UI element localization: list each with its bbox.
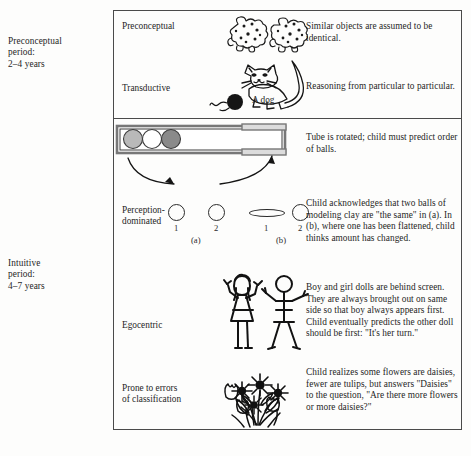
clay-number-a1: 1: [174, 223, 178, 233]
table-row: Prone to errors of classification: [114, 365, 461, 430]
period-label-intuitive: Intuitive period: 4–7 years: [8, 258, 106, 292]
period-label-line3: 4–7 years: [8, 281, 106, 292]
illustration-similar-creatures: [222, 14, 308, 54]
period-label-line2: period:: [8, 269, 106, 280]
table-row: Perception- dominated 1 2 1 2 (a) (b) Ch…: [114, 196, 461, 256]
row-description-egocentric: Boy and girl dolls are behind screen. Th…: [306, 282, 458, 340]
row-description-preconceptual: Similar objects are assumed to be identi…: [306, 21, 458, 44]
figure-page: Preconceptual period: 2–4 years Intuitiv…: [0, 0, 471, 456]
illustration-clay-conservation: 1 2 1 2 (a) (b): [164, 202, 304, 248]
illustration-flowers-bouquet: [204, 367, 314, 429]
illustration-boy-and-girl-dolls: [214, 272, 314, 358]
clay-number-b1: 1: [264, 223, 268, 233]
row-label-line2: of classification: [122, 394, 214, 405]
row-label-classification: Prone to errors of classification: [122, 383, 214, 406]
period-label-line1: Intuitive: [8, 258, 106, 269]
table-period-divider: [113, 118, 462, 119]
clay-group-label-a: (a): [191, 235, 201, 245]
clay-flattened-b1: [249, 209, 285, 217]
clay-ball-a1: [168, 204, 185, 221]
clay-number-b2: 2: [298, 223, 302, 233]
table-row: Egocentric: [114, 262, 461, 362]
row-label-egocentric: Egocentric: [122, 320, 214, 331]
illustration-rotating-tube: [110, 122, 310, 192]
row-description-classification: Child realizes some flowers are daisies,…: [306, 367, 458, 413]
period-label-preconceptual: Preconceptual period: 2–4 years: [8, 36, 106, 70]
ball-light: [124, 130, 143, 149]
table-row: Transductive: [114, 55, 461, 118]
clay-number-a2: 2: [214, 223, 218, 233]
row-description-perception-dominated: Child acknowledges that two balls of mod…: [306, 198, 458, 244]
ball-white: [143, 130, 162, 149]
clay-group-label-b: (b): [276, 235, 286, 245]
period-label-line2: period:: [8, 47, 106, 58]
row-label-preconceptual: Preconceptual: [122, 21, 214, 32]
ball-dark: [162, 130, 181, 149]
row-description-transductive: Reasoning from particular to particular.: [306, 81, 458, 93]
row-label-line1: Prone to errors: [122, 383, 214, 394]
row-description-intuitive: Tube is rotated; child must predict orde…: [306, 132, 458, 155]
cat-caption-a-dog: A dog: [252, 95, 274, 105]
table-row: Intuitive Tub: [114, 120, 461, 195]
period-label-line3: 2–4 years: [8, 59, 106, 70]
row-label-transductive: Transductive: [122, 83, 214, 94]
clay-ball-a2: [208, 204, 225, 221]
period-label-line1: Preconceptual: [8, 36, 106, 47]
